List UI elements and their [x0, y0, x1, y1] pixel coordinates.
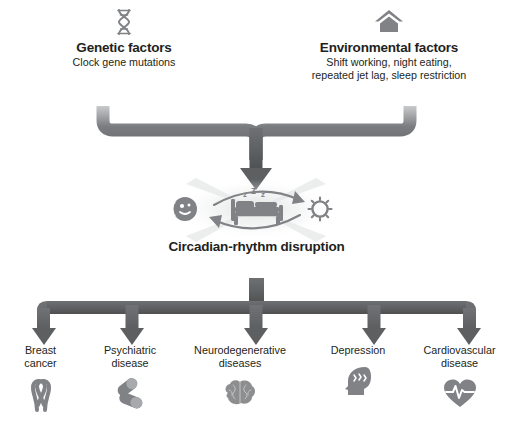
sun-icon — [308, 198, 331, 221]
heart-ecg-icon — [408, 378, 511, 414]
outcome-psychiatric-disease: Psychiatric disease — [90, 344, 170, 414]
house-icon — [265, 8, 513, 38]
outcome-label-line-1: Cardiovascular — [408, 344, 511, 357]
sleep-zzz-icon: z z z — [243, 185, 265, 199]
moon-icon — [172, 197, 197, 221]
dna-helix-icon — [0, 8, 248, 38]
svg-text:z: z — [261, 190, 265, 199]
outcome-label-line-2: disease — [90, 357, 170, 370]
outcome-depression: Depression — [312, 344, 404, 401]
center-icon-group: z z z — [0, 183, 513, 235]
source-subtitle-line-1: Shift working, night eating, — [265, 56, 513, 69]
outcome-cardiovascular-disease: Cardiovascular disease — [408, 344, 511, 414]
source-title: Genetic factors — [0, 40, 248, 55]
brain-icon — [178, 378, 302, 414]
outcome-label-line-1: Neurodegenerative — [178, 344, 302, 357]
source-subtitle-line-2: repeated jet lag, sleep restriction — [265, 69, 513, 82]
cycle-arrow-head-left — [209, 215, 222, 228]
diverging-arrow — [32, 278, 481, 345]
outcome-label-line-2: cancer — [3, 357, 78, 370]
awareness-ribbon-icon — [3, 378, 78, 414]
source-environmental-factors: Environmental factors Shift working, nig… — [265, 8, 513, 82]
outcome-label-line-1: Psychiatric — [90, 344, 170, 357]
outcome-label-line-1: Depression — [312, 344, 404, 357]
bed-sleep-icon — [231, 199, 283, 225]
svg-text:z: z — [251, 185, 256, 196]
svg-text:z: z — [243, 190, 247, 199]
head-lightning-icon — [312, 365, 404, 401]
outcome-breast-cancer: Breast cancer — [3, 344, 78, 414]
outcome-label-line-2: diseases — [178, 357, 302, 370]
source-title: Environmental factors — [265, 40, 513, 55]
outcome-label-line-2: disease — [408, 357, 511, 370]
cycle-arrow-head-right — [292, 191, 305, 204]
center-node-circadian-disruption: z z z — [0, 183, 513, 254]
source-subtitle: Clock gene mutations — [0, 56, 248, 69]
outcome-neurodegenerative-diseases: Neurodegenerative diseases — [178, 344, 302, 414]
outcome-label-line-1: Breast — [3, 344, 78, 357]
center-title: Circadian-rhythm disruption — [0, 239, 513, 254]
source-genetic-factors: Genetic factors Clock gene mutations — [0, 8, 248, 69]
pills-icon — [90, 378, 170, 414]
converging-arrow — [103, 106, 410, 190]
